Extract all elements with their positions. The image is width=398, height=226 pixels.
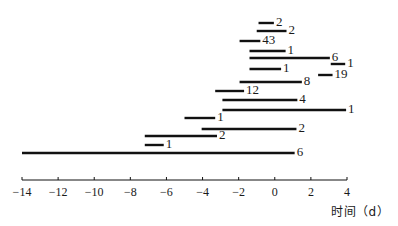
bar-count-label: 12 [246, 82, 259, 97]
x-tick-label: −4 [196, 185, 209, 199]
bar-count-label: 1 [347, 55, 354, 70]
bar-count-label: 43 [262, 32, 275, 47]
bar-count-label: 2 [219, 127, 226, 142]
bar-count-label: 2 [289, 22, 296, 37]
bar-count-label: 1 [348, 101, 355, 116]
x-tick-label: −14 [13, 185, 32, 199]
bar-count-label: 6 [332, 49, 339, 64]
bar-count-label: 1 [217, 109, 224, 124]
x-tick-label: −8 [124, 185, 137, 199]
x-axis: −14−12−10−8−6−4−2024 [13, 177, 350, 199]
x-tick-label: 4 [344, 185, 350, 199]
x-tick-label: −12 [49, 185, 68, 199]
x-tick-label: −2 [232, 185, 245, 199]
bar-count-label: 1 [166, 136, 173, 151]
bar-count-label: 6 [297, 144, 304, 159]
x-tick-label: −10 [85, 185, 104, 199]
bar-count-label: 2 [276, 14, 283, 29]
bar-count-label: 1 [283, 60, 290, 75]
bars-group: 22431611198124112216 [22, 14, 355, 159]
bar-count-label: 4 [299, 91, 306, 106]
bar-count-label: 8 [304, 73, 311, 88]
bar-count-label: 19 [335, 66, 348, 81]
range-bar-chart: 22431611198124112216 −14−12−10−8−6−4−202… [0, 0, 398, 226]
x-tick-label: −6 [160, 185, 173, 199]
x-tick-label: 0 [272, 185, 278, 199]
x-axis-label: 时间（d） [331, 202, 389, 219]
x-tick-label: 2 [308, 185, 314, 199]
bar-count-label: 2 [298, 120, 305, 135]
bar-count-label: 1 [288, 42, 295, 57]
